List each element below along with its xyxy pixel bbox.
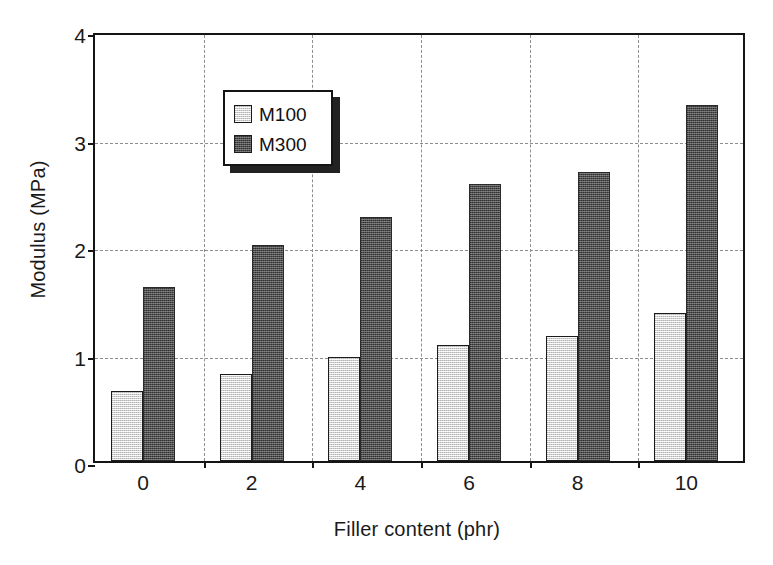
x-tick-mark [421,461,423,468]
legend-swatch-m100-icon [234,105,252,123]
x-axis-title: Filler content (phr) [88,518,746,541]
bar-m300-2 [252,245,284,461]
x-tick-label: 2 [246,472,258,493]
x-tick-label: 4 [354,472,366,493]
y-tick-label: 1 [74,347,86,368]
legend-label-m100: M100 [259,105,307,124]
legend-label-m300: M300 [259,135,307,154]
legend-item-m100[interactable]: M100 [234,99,331,129]
gridline-vertical [421,35,422,461]
y-tick-label: 2 [74,240,86,261]
gridline-horizontal [95,143,743,144]
figure: Modulus (MPa) 01234 0246810 M100 M300 Fi… [0,0,773,565]
gridline-vertical [530,35,531,461]
bar-m100-0 [111,391,143,461]
y-tick-label: 3 [74,132,86,153]
y-axis-title: Modulus (MPa) [27,130,50,330]
y-tick-mark [88,35,95,37]
gridline-horizontal [95,358,743,359]
legend-swatch-m300-icon [234,135,252,153]
y-tick-mark [88,465,95,467]
bar-m300-0 [143,287,175,461]
y-tick-mark [88,250,95,252]
x-tick-label: 0 [137,472,149,493]
bar-m100-2 [220,374,252,461]
plot-area: 01234 0246810 M100 M300 [93,33,745,463]
y-tick-label: 0 [74,455,86,476]
bar-m300-4 [360,217,392,461]
y-tick-mark [88,358,95,360]
legend-item-m300[interactable]: M300 [234,129,331,159]
bar-m100-10 [654,313,686,461]
gridline-vertical [204,35,205,461]
gridline-vertical [638,35,639,461]
bar-m300-10 [686,105,718,461]
bar-m100-6 [437,345,469,461]
bar-m300-6 [469,184,501,461]
x-tick-mark [204,461,206,468]
bar-m300-8 [578,172,610,461]
x-tick-mark [638,461,640,468]
x-tick-mark [312,461,314,468]
x-tick-label: 6 [463,472,475,493]
y-tick-mark [88,143,95,145]
x-tick-mark [530,461,532,468]
legend: M100 M300 [223,90,333,166]
x-tick-label: 10 [675,472,698,493]
gridline-horizontal [95,250,743,251]
y-tick-label: 4 [74,25,86,46]
bar-m100-4 [328,357,360,461]
x-tick-label: 8 [572,472,584,493]
bar-m100-8 [546,336,578,461]
